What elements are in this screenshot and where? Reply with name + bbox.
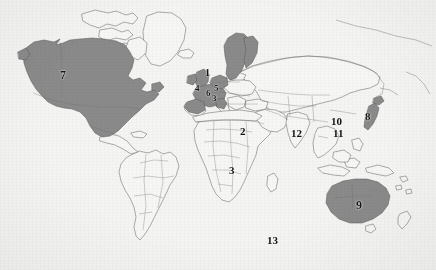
world-map-svg [0, 0, 436, 270]
map-label-5: 5 [214, 84, 219, 93]
map-label-7: 7 [60, 69, 66, 81]
map-label-4: 4 [195, 84, 200, 93]
map-label-6: 6 [206, 89, 211, 98]
map-label-1: 1 [205, 68, 210, 78]
turkey-shape [246, 99, 268, 111]
map-label-2: 2 [240, 126, 246, 137]
world-map-figure: 1 4 6 5 3 2 3 7 12 10 11 8 9 13 [0, 0, 436, 270]
map-label-13: 13 [267, 235, 278, 246]
map-label-12: 12 [291, 128, 302, 139]
map-label-10: 10 [331, 116, 342, 127]
pacific-island-b [396, 185, 402, 190]
pacific-island-c [406, 189, 412, 194]
map-label-3-africa: 3 [229, 165, 235, 176]
map-label-8: 8 [365, 111, 371, 122]
map-label-3-europe: 3 [212, 94, 217, 103]
map-label-9: 9 [356, 199, 362, 211]
map-label-11: 11 [333, 128, 343, 139]
